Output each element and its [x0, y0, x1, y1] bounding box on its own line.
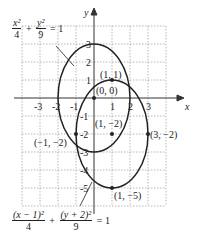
y-tick: 1 — [86, 75, 91, 86]
y-tick: -1 — [80, 111, 88, 122]
point-left-vertex — [74, 132, 78, 136]
point-center — [110, 132, 114, 136]
y-axis-label: y — [83, 7, 89, 18]
x-axis-arrow-icon — [177, 95, 184, 101]
x-tick: 3 — [146, 101, 151, 112]
point-label: (3, −2) — [150, 129, 177, 141]
x-tick: -3 — [34, 101, 42, 112]
fraction: y² 9 — [36, 18, 45, 40]
point-label: (1, −2) — [95, 118, 122, 130]
point-label: (1, 1) — [100, 69, 122, 81]
point-label: (−1, −2) — [34, 137, 67, 149]
fraction: (y + 2)² 9 — [60, 210, 93, 232]
point-origin — [92, 96, 96, 100]
y-axis-arrow-icon — [91, 8, 97, 15]
x-tick: 1 — [110, 101, 115, 112]
equation-original: x² 4 + y² 9 = 1 — [12, 18, 65, 40]
y-tick: -4 — [80, 165, 88, 176]
fraction: (x − 1)² 4 — [12, 210, 45, 232]
fraction: x² 4 — [12, 18, 21, 40]
x-axis-label: x — [184, 101, 190, 112]
point-label: (0, 0) — [96, 85, 118, 97]
y-tick: -2 — [80, 129, 88, 140]
point-label: (1, −5) — [114, 190, 141, 202]
y-tick: 2 — [86, 57, 91, 68]
equation-translated: (x − 1)² 4 + (y + 2)² 9 = 1 — [12, 210, 112, 232]
x-tick: -1 — [70, 101, 78, 112]
